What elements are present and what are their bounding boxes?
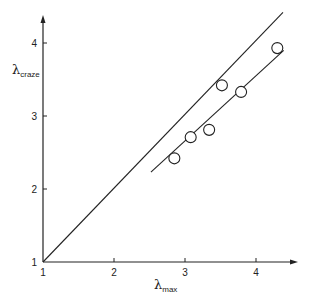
y-tick-label: 2 bbox=[31, 184, 37, 195]
trend-line bbox=[43, 12, 283, 262]
data-point-circle bbox=[204, 124, 215, 135]
x-axis-label: λmax bbox=[154, 277, 177, 294]
x-axis-arrow-icon bbox=[290, 260, 298, 265]
y-tick-label: 3 bbox=[31, 111, 37, 122]
data-point-circle bbox=[185, 132, 196, 143]
x-tick-label: 4 bbox=[253, 267, 259, 278]
lines bbox=[43, 12, 284, 262]
data-point-circle bbox=[272, 43, 283, 54]
x-tick-label: 2 bbox=[111, 267, 117, 278]
axes bbox=[41, 15, 299, 265]
data-point-circle bbox=[236, 86, 247, 97]
data-point-circle bbox=[169, 153, 180, 164]
y-tick-label: 4 bbox=[31, 38, 37, 49]
x-tick-label: 1 bbox=[40, 267, 46, 278]
chart: 1234 1234 λmax λcraze bbox=[0, 0, 310, 298]
x-tick-label: 3 bbox=[182, 267, 188, 278]
y-tick-label: 1 bbox=[31, 257, 37, 268]
x-ticks: 1234 bbox=[40, 258, 259, 278]
y-axis-label: λcraze bbox=[12, 62, 40, 79]
data-point-circle bbox=[216, 80, 227, 91]
y-axis-arrow-icon bbox=[41, 15, 46, 23]
